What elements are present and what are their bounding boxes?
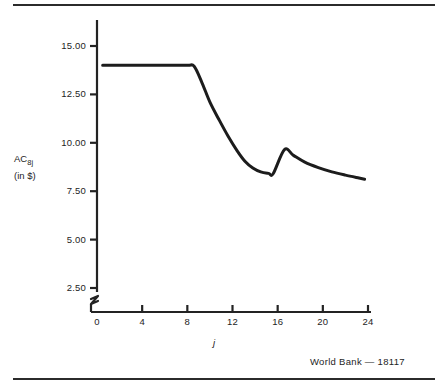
data-line-series [103,65,365,179]
y-tick-label-12.50: 12.50 [42,88,86,99]
axis-ticks [90,46,368,312]
x-tick-label-0: 0 [82,316,112,327]
axes [91,20,371,312]
y-tick-label-7.50: 7.50 [42,185,86,196]
x-tick-label-20: 20 [308,316,338,327]
chart-figure: 2.505.007.5010.0012.5015.00 04812162024 … [0,0,443,389]
x-tick-label-16: 16 [263,316,293,327]
x-tick-label-12: 12 [218,316,248,327]
series-line-AC_8j [103,65,365,179]
x-tick-label-8: 8 [172,316,202,327]
y-axis-title-subscript: 8j [27,158,33,167]
x-tick-label-4: 4 [127,316,157,327]
axis-break-zigzag [91,296,98,304]
y-tick-label-2.50: 2.50 [42,282,86,293]
y-axis-title: AC8j (in $) [14,152,36,182]
y-tick-label-15.00: 15.00 [42,40,86,51]
axis-break-mark [91,296,98,312]
x-axis-title: j [213,337,215,348]
y-tick-label-10.00: 10.00 [42,137,86,148]
y-tick-label-5.00: 5.00 [42,234,86,245]
y-axis-title-main: AC [14,153,27,164]
y-axis-units: (in $) [14,169,36,182]
x-tick-label-24: 24 [353,316,383,327]
source-credit: World Bank — 18117 [310,356,405,367]
